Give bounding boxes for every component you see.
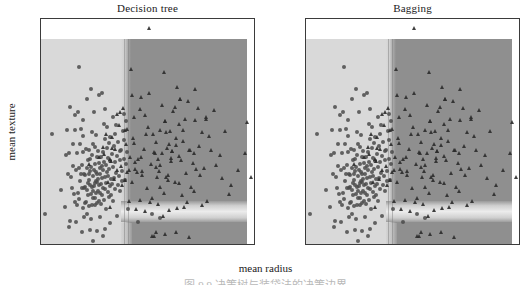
data-point-class1: [382, 123, 386, 127]
data-point-class1: [422, 169, 426, 173]
data-point-class0: [124, 119, 128, 123]
data-point-class0: [372, 141, 376, 145]
data-point-class1: [453, 148, 457, 152]
data-point-class0: [363, 215, 367, 219]
data-point-class1: [367, 152, 371, 156]
data-point-class1: [488, 129, 492, 133]
data-point-class1: [157, 169, 161, 173]
clipped-caption-fragment: 图 9.9 决策树与装袋法的决策边界: [0, 279, 531, 285]
data-point-class0: [101, 234, 105, 238]
data-point-class0: [389, 162, 393, 166]
data-point-class0: [364, 202, 368, 206]
data-point-class0: [336, 142, 340, 146]
y-tick: [40, 59, 41, 60]
data-point-class1: [170, 149, 174, 153]
data-point-class1: [174, 136, 178, 140]
data-point-class1: [439, 143, 443, 147]
data-point-class0: [102, 122, 106, 126]
data-point-class1: [432, 208, 436, 212]
data-point-class0: [357, 110, 361, 114]
data-point-class1: [485, 176, 489, 180]
data-point-class1: [438, 180, 442, 184]
data-point-class1: [130, 180, 134, 184]
data-point-class0: [77, 65, 81, 69]
y-axis-label: mean texture: [5, 103, 17, 160]
data-point-class1: [188, 148, 192, 152]
data-point-class0: [383, 189, 387, 193]
data-point-class1: [435, 149, 439, 153]
data-point-class0: [65, 128, 69, 132]
data-point-class0: [378, 187, 382, 191]
data-point-class0: [110, 152, 114, 156]
data-point-class1: [448, 117, 452, 121]
data-point-class1: [440, 206, 444, 210]
data-point-class0: [85, 97, 89, 101]
data-point-class0: [122, 157, 126, 161]
data-point-class0: [375, 152, 379, 156]
data-point-class1: [413, 200, 417, 204]
data-point-class1: [362, 155, 366, 159]
figure-canvas: mean texture Decision tree 1015202530354…: [0, 0, 531, 285]
y-tick: [305, 131, 306, 132]
data-point-class0: [81, 150, 85, 154]
data-point-class0: [324, 188, 328, 192]
data-point-class1: [112, 177, 116, 181]
data-point-class1: [128, 155, 132, 159]
data-point-class0: [80, 163, 84, 167]
data-point-class1: [417, 150, 421, 154]
data-point-class1: [373, 157, 377, 161]
data-point-class1: [214, 163, 218, 167]
data-point-class0: [113, 187, 117, 191]
data-point-class1: [463, 173, 467, 177]
data-point-class1: [191, 161, 195, 165]
x-tick: [223, 244, 224, 245]
data-point-class1: [419, 140, 423, 144]
data-point-class0: [118, 189, 122, 193]
data-point-class1: [408, 209, 412, 213]
data-point-class1: [452, 235, 456, 239]
data-point-class0: [98, 215, 102, 219]
data-point-class1: [390, 170, 394, 174]
data-point-class0: [81, 134, 85, 138]
data-point-class1: [110, 135, 114, 139]
data-point-class1: [245, 120, 249, 124]
x-tick: [75, 244, 76, 245]
data-point-class1: [154, 140, 158, 144]
data-point-class0: [71, 164, 75, 168]
data-point-class0: [95, 229, 99, 233]
data-point-class1: [148, 200, 152, 204]
data-point-class1: [132, 141, 136, 145]
data-point-class1: [101, 145, 105, 149]
data-point-class0: [105, 146, 109, 150]
data-point-class0: [78, 179, 82, 183]
data-point-class1: [444, 158, 448, 162]
data-point-class0: [70, 186, 74, 190]
data-point-class1: [187, 235, 191, 239]
data-point-class0: [102, 198, 106, 202]
data-point-class1: [209, 148, 213, 152]
data-point-class0: [118, 149, 122, 153]
data-point-class0: [68, 219, 72, 223]
y-tick: [305, 23, 306, 24]
data-point-class0: [366, 234, 370, 238]
data-point-class1: [465, 130, 469, 134]
data-point-class0: [315, 132, 319, 136]
data-point-class1: [388, 178, 392, 182]
x-tick: [389, 244, 390, 245]
data-point-class0: [356, 239, 360, 243]
data-point-class0: [332, 225, 336, 229]
data-point-class0: [100, 91, 104, 95]
data-point-class0: [401, 220, 405, 224]
data-point-class1: [139, 95, 143, 99]
data-point-class0: [77, 197, 81, 201]
data-point-class0: [370, 125, 374, 129]
y-axis-label-wrapper: mean texture: [9, 0, 23, 260]
data-point-class0: [367, 198, 371, 202]
data-point-class0: [88, 228, 92, 232]
data-point-class1: [186, 99, 190, 103]
data-point-class0: [107, 141, 111, 145]
data-point-class1: [132, 115, 136, 119]
data-point-class1: [177, 122, 181, 126]
data-point-class1: [125, 170, 129, 174]
data-point-class1: [134, 207, 138, 211]
